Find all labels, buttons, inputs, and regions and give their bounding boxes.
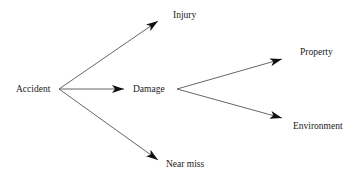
arrow-accident-to-near-miss — [59, 89, 158, 160]
arrow-accident-to-injury — [59, 21, 158, 89]
node-damage: Damage — [133, 85, 165, 95]
arrow-damage-to-environment — [177, 89, 282, 118]
node-property: Property — [300, 48, 333, 58]
edges — [59, 21, 282, 160]
node-injury: Injury — [173, 11, 196, 21]
arrow-damage-to-property — [177, 59, 282, 89]
accident-outcome-diagram — [0, 0, 354, 177]
node-environment: Environment — [293, 122, 343, 132]
node-accident: Accident — [16, 85, 50, 95]
node-near-miss: Near miss — [166, 160, 204, 170]
